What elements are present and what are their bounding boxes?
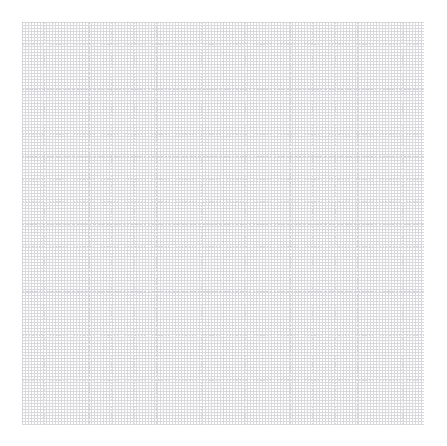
- grid-horizontal-major-lines: [22, 22, 424, 425]
- grid-horizontal-minor-lines: [22, 22, 424, 425]
- graph-paper-grid[interactable]: [22, 22, 424, 425]
- grid-vertical-major-lines: [22, 22, 424, 425]
- canvas-root: [0, 0, 447, 446]
- grid-vertical-minor-lines: [22, 22, 424, 425]
